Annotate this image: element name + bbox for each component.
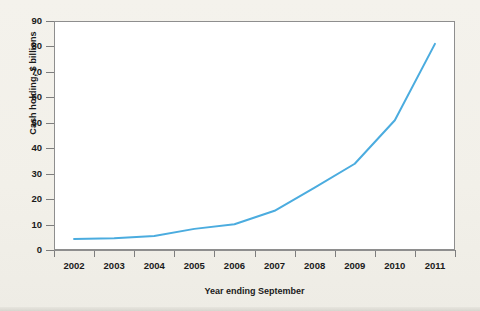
y-tick-mark bbox=[46, 21, 54, 22]
x-tick-mark bbox=[375, 250, 376, 257]
y-tick-label: 90 bbox=[31, 15, 42, 26]
y-tick-label: 50 bbox=[31, 117, 42, 128]
y-axis-title: Cash holding, $ billions bbox=[28, 3, 38, 163]
x-axis-line bbox=[54, 250, 455, 251]
x-tick-mark bbox=[455, 250, 456, 257]
plot-area bbox=[54, 21, 455, 250]
x-tick-mark bbox=[174, 250, 175, 257]
y-tick-label: 30 bbox=[31, 168, 42, 179]
y-tick-mark bbox=[46, 225, 54, 226]
y-tick-label: 80 bbox=[31, 40, 42, 51]
y-tick-mark bbox=[46, 123, 54, 124]
y-tick-mark bbox=[46, 72, 54, 73]
x-tick-mark bbox=[134, 250, 135, 257]
y-tick-label: 60 bbox=[31, 91, 42, 102]
x-tick-mark bbox=[415, 250, 416, 257]
y-tick-mark bbox=[46, 199, 54, 200]
y-tick-mark bbox=[46, 174, 54, 175]
y-tick-mark bbox=[46, 46, 54, 47]
x-tick-mark bbox=[214, 250, 215, 257]
y-tick-mark bbox=[46, 148, 54, 149]
x-tick-label-2011: 2011 bbox=[410, 260, 460, 271]
x-tick-mark bbox=[295, 250, 296, 257]
y-tick-label: 40 bbox=[31, 142, 42, 153]
y-tick-label: 20 bbox=[31, 193, 42, 204]
x-tick-mark bbox=[255, 250, 256, 257]
y-tick-mark bbox=[46, 250, 54, 251]
chart-figure: Cash holding, $ billions 010203040506070… bbox=[0, 0, 480, 311]
x-tick-mark bbox=[335, 250, 336, 257]
x-axis-title: Year ending September bbox=[54, 286, 455, 296]
y-tick-label: 70 bbox=[31, 66, 42, 77]
x-tick-mark bbox=[54, 250, 55, 257]
y-tick-mark bbox=[46, 97, 54, 98]
y-tick-label: 10 bbox=[31, 219, 42, 230]
x-tick-mark bbox=[94, 250, 95, 257]
y-tick-label: 0 bbox=[37, 244, 42, 255]
page-edge-shadow bbox=[0, 307, 480, 311]
